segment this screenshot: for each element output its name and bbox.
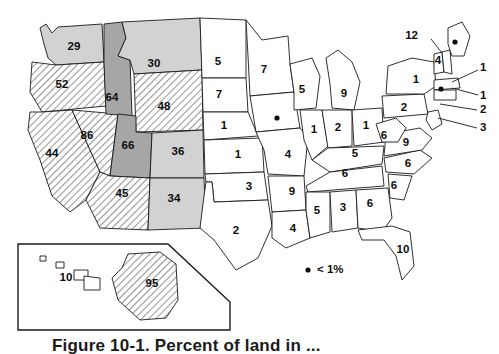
us-choropleth-map-figure: 2952448664304866364534571132749451921565… <box>0 0 499 354</box>
state-value-MI: 9 <box>341 87 347 99</box>
state-value-MS: 5 <box>314 204 321 216</box>
callout-value-NH: 4 <box>435 54 442 66</box>
state-shape-MN[interactable] <box>246 20 294 96</box>
state-shape-IA[interactable] <box>250 92 300 132</box>
figure-caption: Figure 10-1. Percent of land in ... <box>52 336 499 354</box>
state-shape-OK[interactable] <box>205 172 268 202</box>
callout-value-NJ: 3 <box>480 121 486 133</box>
state-value-ID: 64 <box>106 91 119 103</box>
state-shape-GA[interactable] <box>356 188 392 232</box>
state-value-CA: 44 <box>46 147 59 159</box>
legend-dot-icon <box>305 267 310 272</box>
map-canvas: 2952448664304866364534571132749451921565… <box>0 0 499 354</box>
state-shape-AZ[interactable] <box>86 172 150 230</box>
state-value-MN: 7 <box>261 63 267 75</box>
state-shape-NE[interactable] <box>203 112 258 140</box>
state-value-WY: 48 <box>158 100 171 112</box>
state-value-KY: 5 <box>352 147 359 159</box>
state-value-WV: 6 <box>381 129 387 141</box>
alaska-hawaii-inset: 1095 <box>18 244 230 330</box>
state-shape-NY[interactable] <box>386 58 436 94</box>
state-shape-MI[interactable] <box>326 50 360 110</box>
state-value-MO: 4 <box>285 148 292 160</box>
state-value-TN: 6 <box>342 167 348 179</box>
state-value-IL: 1 <box>311 123 318 135</box>
state-shape-SD[interactable] <box>202 78 248 112</box>
callout-line-CT <box>440 104 477 110</box>
state-shape-AR[interactable] <box>268 176 306 212</box>
state-value-NM: 34 <box>168 192 181 204</box>
state-value-UT: 66 <box>122 139 135 151</box>
state-value-FL: 10 <box>397 243 410 255</box>
state-shape-ND[interactable] <box>200 18 246 78</box>
legend-label: < 1% <box>317 263 344 275</box>
callout-value-MA: 1 <box>480 61 487 73</box>
state-value-GA: 6 <box>367 197 373 209</box>
state-value-WI: 5 <box>299 83 306 95</box>
state-value-PA: 2 <box>401 101 407 113</box>
state-shape-NJ-DE-MD[interactable] <box>426 110 442 130</box>
state-dot-ME <box>452 39 457 44</box>
state-value-SD: 7 <box>216 88 222 100</box>
state-value-KS: 1 <box>235 148 242 160</box>
state-value-AL: 3 <box>340 201 346 213</box>
state-value-LA: 4 <box>290 222 297 234</box>
state-value-NC: 6 <box>405 157 411 169</box>
inset-value-AK: 95 <box>146 277 159 289</box>
state-value-AR: 9 <box>289 185 295 197</box>
inset-value-HI: 10 <box>60 271 73 283</box>
callout-value-RI: 1 <box>480 89 487 101</box>
callout-line-MA <box>452 70 478 82</box>
state-dot-IA <box>274 115 279 120</box>
state-value-OK: 3 <box>246 180 252 192</box>
state-shape-HI-1[interactable] <box>40 256 46 261</box>
state-value-NV: 86 <box>81 129 94 141</box>
callout-value-CT: 2 <box>480 103 486 115</box>
state-shape-NH[interactable] <box>442 50 452 74</box>
state-value-VA: 9 <box>403 136 409 148</box>
state-value-MT: 30 <box>148 57 161 69</box>
state-value-ND: 5 <box>215 55 222 67</box>
state-value-CO: 36 <box>172 145 185 157</box>
state-value-AZ: 45 <box>116 187 129 199</box>
legend: < 1% <box>305 263 343 275</box>
state-value-TX: 2 <box>233 224 239 236</box>
state-value-OR: 52 <box>56 78 69 90</box>
state-shape-CT-RI[interactable] <box>434 90 456 100</box>
state-value-NY: 1 <box>413 73 420 85</box>
state-value-OH: 1 <box>363 119 370 131</box>
state-shape-HI-4[interactable] <box>84 276 100 290</box>
state-value-SC: 6 <box>391 179 397 191</box>
state-value-IN: 2 <box>335 121 341 133</box>
state-shape-ME[interactable] <box>448 22 470 56</box>
state-shapes <box>28 18 470 280</box>
callout-line-VT <box>431 39 442 53</box>
callout-line-NJ <box>438 118 477 128</box>
state-value-WA: 29 <box>68 40 81 52</box>
state-shape-HI-2[interactable] <box>56 262 64 268</box>
state-dot-MA <box>438 86 443 91</box>
callout-value-VT: 12 <box>405 29 418 41</box>
state-value-NE: 1 <box>221 119 228 131</box>
